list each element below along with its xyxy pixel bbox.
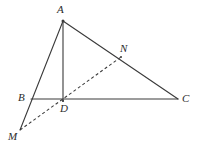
- vertex-label-B: B: [18, 92, 25, 103]
- vertex-label-A: A: [57, 4, 64, 15]
- vertex-label-D: D: [60, 103, 68, 114]
- vertex-label-C: C: [182, 93, 189, 104]
- figure-canvas: [0, 0, 197, 148]
- geometry-figure: A B C D M N: [0, 0, 197, 148]
- vertex-label-M: M: [8, 131, 17, 142]
- vertex-label-N: N: [120, 43, 127, 54]
- segment-A-C: [63, 21, 178, 99]
- segment-M-N: [20, 57, 121, 130]
- segment-A-M: [20, 21, 63, 130]
- vertex-dot-N: [120, 56, 122, 58]
- vertex-dot-A: [62, 20, 65, 23]
